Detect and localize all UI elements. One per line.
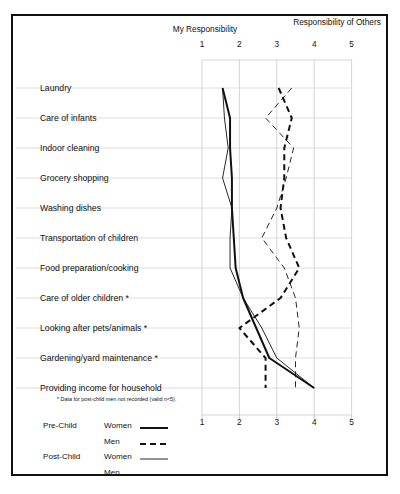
legend-swatch-thick-solid <box>140 425 168 431</box>
legend-swatch-thin-solid <box>140 456 168 462</box>
legend-group-label: Post-Child <box>43 452 80 461</box>
legend-item-label: Men <box>104 437 120 446</box>
category-label: Providing income for household <box>40 383 162 393</box>
tick-label-bottom-3: 3 <box>267 417 287 427</box>
legend-swatch-thick-dashed <box>140 441 168 447</box>
category-label: Gardening/yard maintenance * <box>40 353 158 363</box>
footnote: * Data for post-child men not recorded (… <box>57 396 207 402</box>
legend-item-label: Women <box>104 452 132 461</box>
legend-swatch-thin-dashed <box>140 472 168 478</box>
tick-label-top-4: 4 <box>304 39 324 49</box>
category-label: Grocery shopping <box>40 173 109 183</box>
tick-label-top-5: 5 <box>342 39 362 49</box>
legend-group-label: Pre-Child <box>43 421 77 430</box>
category-label: Looking after pets/animals * <box>40 323 147 333</box>
tick-label-top-1: 1 <box>192 39 212 49</box>
category-label: Food preparation/cooking <box>40 263 139 273</box>
legend-item-label: Women <box>104 421 132 430</box>
category-label: Indoor cleaning <box>40 143 99 153</box>
tick-label-top-3: 3 <box>267 39 287 49</box>
category-label: Washing dishes <box>40 203 101 213</box>
tick-label-bottom-1: 1 <box>192 417 212 427</box>
tick-label-bottom-5: 5 <box>342 417 362 427</box>
category-label: Laundry <box>40 83 71 93</box>
tick-label-bottom-2: 2 <box>229 417 249 427</box>
tick-label-top-2: 2 <box>229 39 249 49</box>
category-label: Care of older children * <box>40 293 129 303</box>
category-label: Transportation of children <box>40 233 138 243</box>
category-label: Care of infants <box>40 113 97 123</box>
tick-label-bottom-4: 4 <box>304 417 324 427</box>
chart-canvas: My Responsibility Responsibility of Othe… <box>0 0 400 494</box>
legend-item-label: Men <box>104 468 120 477</box>
